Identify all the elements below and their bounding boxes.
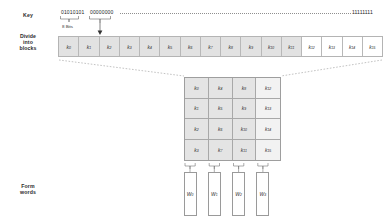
diagram-canvas: Key Divide into blocks Form words 010101… [0,0,388,220]
key-block-13: k13 [322,37,342,56]
key-bits-ellipsis-line [120,13,351,15]
row-label-form-words: Form words [2,183,54,195]
matrix-cell-0: k0 [185,78,209,99]
matrix-cell-6: k6 [209,119,233,140]
row-label-form-line2: words [2,189,54,195]
matrix-cell-7: k7 [209,140,233,161]
brace-word-3-icon [258,163,268,169]
key-bits-first-group: 01010101 [61,9,84,15]
row-label-key: Key [2,12,54,18]
key-block-12: k12 [302,37,322,56]
key-block-0: k0 [59,37,79,56]
row-label-divide-into-blocks: Divide into blocks [2,33,54,52]
matrix-cell-1: k1 [185,99,209,120]
key-block-6: k6 [181,37,201,56]
matrix-cell-2: k2 [185,119,209,140]
key-block-11: k11 [282,37,302,56]
key-block-9: k9 [241,37,261,56]
arrow-head-icon [98,30,103,35]
matrix-cell-15: k15 [256,140,280,161]
matrix-cell-10: k10 [233,119,257,140]
word-box-1: W1 [208,172,221,216]
bit-width-label: 8 Bits [62,24,73,29]
word-box-2: W2 [232,172,245,216]
matrix-cell-13: k13 [256,99,280,120]
funnel-left-line [59,60,184,76]
matrix-cell-4: k4 [209,78,233,99]
key-block-7: k7 [201,37,221,56]
matrix-cell-3: k3 [185,140,209,161]
matrix-cell-11: k11 [233,140,257,161]
key-block-1: k1 [79,37,99,56]
brace-word-2-icon [234,163,244,169]
matrix-cell-9: k9 [233,99,257,120]
matrix-cell-14: k14 [256,119,280,140]
key-block-14: k14 [343,37,363,56]
matrix-cell-8: k8 [233,78,257,99]
row-label-divide-line3: blocks [2,45,54,51]
key-matrix-grid: k0k4k8k12k1k5k9k13k2k6k10k14k3k7k11k15 [184,77,281,161]
funnel-right-line [281,60,382,76]
key-block-2: k2 [100,37,120,56]
key-block-8: k8 [221,37,241,56]
brace-second-group-icon [90,16,111,23]
key-block-3: k3 [120,37,140,56]
key-bits-second-group: 00000000 [90,9,113,15]
brace-word-1-icon [209,163,219,169]
key-block-4: k4 [140,37,160,56]
key-blocks-row: k0k1k2k3k4k5k6k7k8k9k10k11k12k13k14k15 [58,36,383,57]
key-block-5: k5 [160,37,180,56]
matrix-cell-12: k12 [256,78,280,99]
word-box-0: W0 [184,172,197,216]
matrix-cell-5: k5 [209,99,233,120]
key-block-10: k10 [262,37,282,56]
key-bits-last-group: 11111111 [352,9,373,15]
key-block-15: k15 [363,37,382,56]
word-box-3: W3 [256,172,269,216]
brace-word-0-icon [185,163,195,169]
brace-first-group-icon [61,16,79,22]
